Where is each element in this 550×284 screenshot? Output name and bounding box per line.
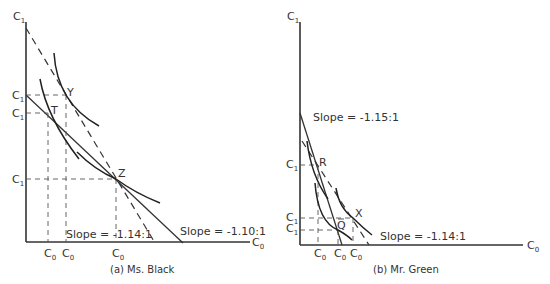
caption-mr-green: (b) Mr. Green bbox=[373, 264, 439, 275]
point-label-q: Q bbox=[337, 219, 346, 232]
point-label-y: Y bbox=[66, 86, 74, 99]
y-tick-r: C1 bbox=[286, 158, 298, 173]
chart-ms-black: C1 C1 C1 C1 C0 C0 C0 C0 Y T Z Slope = -1… bbox=[12, 10, 266, 275]
y-tick-t: C1 bbox=[12, 107, 24, 122]
slope-label-solid: Slope = -1.15:1 bbox=[313, 111, 399, 124]
y-axis-label: C1 bbox=[287, 10, 299, 25]
point-label-z: Z bbox=[118, 167, 126, 180]
x-tick-x: C0 bbox=[350, 247, 362, 262]
point-label-t: T bbox=[50, 104, 58, 117]
x-tick-q: C0 bbox=[334, 247, 346, 262]
x-axis-label: C0 bbox=[527, 239, 539, 254]
point-label-x: X bbox=[355, 207, 363, 220]
indifference-curve-y bbox=[54, 53, 99, 126]
figure: C1 C1 C1 C1 C0 C0 C0 C0 Y T Z Slope = -1… bbox=[0, 0, 550, 284]
x-axis-label: C0 bbox=[252, 236, 264, 251]
x-tick-z: C0 bbox=[112, 247, 124, 262]
caption-ms-black: (a) Ms. Black bbox=[110, 264, 175, 275]
budget-line-solid bbox=[26, 95, 183, 243]
slope-label-dashed: Slope = -1.14:1 bbox=[66, 228, 152, 241]
slope-label-dashed: Slope = -1.14:1 bbox=[380, 230, 466, 243]
budget-line-solid bbox=[300, 113, 342, 245]
x-tick-t: C0 bbox=[44, 247, 56, 262]
chart-mr-green: C1 C1 C1 C1 C0 C0 C0 C0 R Q X Slope = -1… bbox=[286, 10, 539, 275]
x-tick-r: C0 bbox=[314, 247, 326, 262]
point-label-r: R bbox=[319, 156, 327, 169]
y-axis-label: C1 bbox=[13, 10, 25, 25]
y-tick-z: C1 bbox=[12, 173, 24, 188]
x-tick-y: C0 bbox=[62, 247, 74, 262]
y-tick-y: C1 bbox=[12, 89, 24, 104]
budget-line-dashed bbox=[26, 28, 155, 243]
slope-label-solid: Slope = -1.10:1 bbox=[180, 225, 266, 238]
